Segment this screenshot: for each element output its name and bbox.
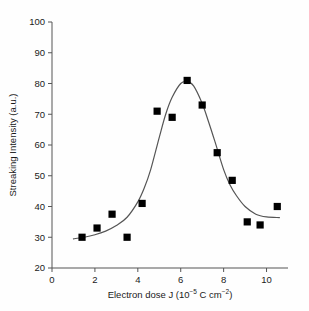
data-point-marker [184, 77, 191, 84]
figure-container: 2030405060708090100 0246810 Electron dos… [0, 0, 309, 311]
x-tick-label: 10 [261, 274, 272, 285]
y-tick-label: 80 [34, 78, 45, 89]
x-tick-label: 6 [178, 274, 183, 285]
y-tick-label: 40 [34, 201, 45, 212]
y-tick-label: 70 [34, 109, 45, 120]
data-point-marker [229, 177, 236, 184]
data-point-marker [108, 211, 115, 218]
data-point-marker [123, 234, 130, 241]
data-point-marker [274, 203, 281, 210]
data-point-marker [139, 200, 146, 207]
data-point-marker [257, 221, 264, 228]
y-tick-label: 90 [34, 47, 45, 58]
x-axis-title: Electron dose J (10−5 C cm−2) [108, 288, 233, 300]
data-point-marker [244, 218, 251, 225]
x-tick-label: 8 [221, 274, 226, 285]
x-tick-label: 4 [135, 274, 140, 285]
y-tick-label: 30 [34, 232, 45, 243]
data-point-marker [154, 108, 161, 115]
data-point-marker [93, 224, 100, 231]
data-point-marker [199, 101, 206, 108]
y-axis-title: Streaking Intensity (a.u.) [7, 94, 18, 197]
y-tick-label: 20 [34, 262, 45, 273]
x-tick-label: 2 [92, 274, 97, 285]
y-tick-label: 60 [34, 139, 45, 150]
streaking-intensity-scatter-chart: 2030405060708090100 0246810 Electron dos… [0, 0, 309, 311]
data-point-marker [78, 234, 85, 241]
data-point-marker [169, 114, 176, 121]
data-point-marker [214, 149, 221, 156]
x-tick-label: 0 [49, 274, 54, 285]
y-tick-label: 100 [29, 16, 45, 27]
y-tick-label: 50 [34, 170, 45, 181]
